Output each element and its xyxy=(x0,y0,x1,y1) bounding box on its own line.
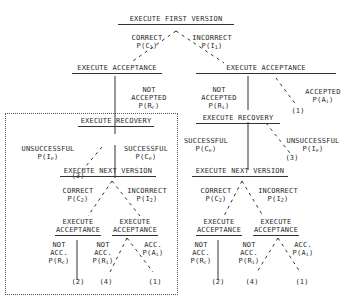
branch-left-not-acc-c: NOTACC.P(Rc) xyxy=(44,241,74,265)
outcome-3-right: (3) xyxy=(284,154,300,162)
branch-right-not-acc-i: NOTACC.P(Ri) xyxy=(234,241,264,265)
branch-right-not-accepted: NOTACCEPTEDP(Ri) xyxy=(196,86,242,110)
branch-right-unsuccessful: UNSUCCESSFULP(Ie) xyxy=(282,137,344,153)
outcome-2-right: (2) xyxy=(210,278,226,286)
branch-left-unsuccessful: UNSUCCESSFULP(Ie) xyxy=(18,145,78,161)
outcome-2-left: (2) xyxy=(70,278,86,286)
node-right-acceptance-after-correct: EXECUTEACCEPTANCE xyxy=(196,218,242,236)
node-left-acceptance-after-incorrect: EXECUTEACCEPTANCE xyxy=(112,218,158,236)
branch-left-acc: ACC.P(Ai) xyxy=(138,241,168,257)
branch-left-incorrect-next: INCORRECTP(I2) xyxy=(123,187,171,203)
node-left-execute-acceptance: EXECUTE ACCEPTANCE xyxy=(72,64,162,74)
node-left-execute-next-version: EXECUTE NEXT VERSION xyxy=(60,167,156,177)
branch-right-correct-next: CORRECTP(C2) xyxy=(196,187,236,203)
branch-right-acc: ACC.P(Ai) xyxy=(288,241,318,257)
branch-right-successful: SUCCESSFULP(Ce) xyxy=(180,137,232,153)
outcome-4-left: (4) xyxy=(98,278,114,286)
outcome-1-accepted: (1) xyxy=(290,107,306,115)
node-right-execute-acceptance: EXECUTE ACCEPTANCE xyxy=(196,64,336,74)
node-right-execute-recovery: EXECUTE RECOVERY xyxy=(196,114,280,124)
node-left-acceptance-after-correct: EXECUTEACCEPTANCE xyxy=(55,218,101,236)
node-right-acceptance-after-incorrect: EXECUTEACCEPTANCE xyxy=(253,218,299,236)
branch-left-successful: SUCCESSFULP(Ce) xyxy=(120,145,172,161)
branch-right-incorrect-next: INCORRECTP(I2) xyxy=(254,187,302,203)
outcome-4-right: (4) xyxy=(244,278,260,286)
outcome-1-left: (1) xyxy=(147,278,163,286)
node-right-execute-next-version: EXECUTE NEXT VERSION xyxy=(192,167,288,177)
branch-left-not-acc-i: NOTACC.P(Ri) xyxy=(88,241,118,265)
branch-right-not-acc-c: NOTACC.P(Rc) xyxy=(186,241,216,265)
node-left-execute-recovery: EXECUTE RECOVERY xyxy=(78,117,154,127)
branch-right-accepted: ACCEPTEDP(Ai) xyxy=(300,88,346,104)
branch-incorrect-first: INCORRECTP(I1) xyxy=(186,34,238,50)
branch-left-correct-next: CORRECTP(C2) xyxy=(58,187,98,203)
branch-left-not-accepted: NOTACCEPTEDP(Rc) xyxy=(126,86,172,110)
outcome-1-right: (1) xyxy=(294,278,310,286)
branch-correct-first: CORRECTP(C1) xyxy=(122,34,172,50)
node-execute-first-version: EXECUTE FIRST VERSION xyxy=(118,15,234,25)
